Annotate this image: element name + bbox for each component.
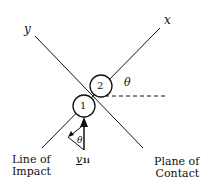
line-of-impact-line2: Impact: [12, 166, 51, 178]
y-axis-label: y: [24, 23, 31, 35]
particle-1-label: 1: [80, 100, 86, 112]
theta-label: θ: [124, 77, 131, 89]
plane-of-contact-line: [35, 36, 143, 148]
velocity-subscript: 1i: [82, 156, 90, 165]
particle-2-label: 2: [97, 80, 103, 92]
component-arrowhead-icon: [68, 131, 74, 137]
velocity-label: v1i: [76, 154, 90, 167]
plane-of-contact-line2: Contact: [154, 168, 199, 180]
velocity-arrowhead-icon: [80, 117, 88, 127]
plane-of-contact-label: Plane of Contact: [154, 156, 199, 180]
line-of-impact-label: Line of Impact: [12, 154, 51, 178]
x-axis-label: x: [164, 14, 171, 26]
theta-small-label: θ: [77, 134, 82, 146]
